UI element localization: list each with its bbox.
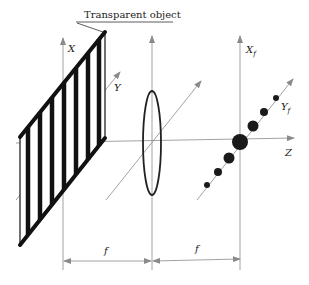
- fourier-optics-diagram: Transparent object X Y Xf Yf Z f f: [0, 0, 309, 285]
- diffraction-spots: [204, 95, 279, 188]
- distance-label-left: f: [103, 245, 110, 256]
- focal-y-label: Yf: [281, 101, 292, 115]
- object-x-label: X: [67, 43, 76, 54]
- distance-label-right: f: [194, 243, 201, 254]
- z-label: Z: [284, 147, 293, 158]
- label-leader: [77, 23, 103, 32]
- grating: [20, 32, 105, 245]
- focal-x-label: Xf: [245, 44, 257, 58]
- lens-y-axis: [106, 81, 201, 200]
- object-y-label: Y: [114, 82, 122, 93]
- transparent-object-label: Transparent object: [84, 9, 181, 20]
- dimension-right: [153, 259, 240, 261]
